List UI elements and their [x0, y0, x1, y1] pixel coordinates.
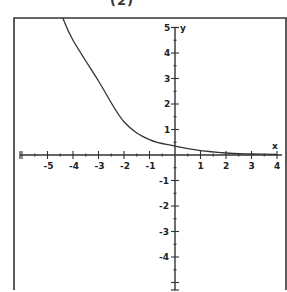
y-tick-label: -2 [159, 201, 169, 211]
x-tick-label: -4 [69, 161, 79, 171]
y-tick-label: -4 [159, 252, 169, 262]
x-tick-label: -3 [95, 161, 105, 171]
x-tick-label: -1 [146, 161, 156, 171]
x-tick-label: -2 [120, 161, 130, 171]
x-tick-label: 2 [223, 161, 229, 171]
tick-marks [22, 28, 277, 283]
y-tick-label: 5 [164, 23, 170, 33]
x-axis-label: x [272, 141, 278, 151]
x-tick-label: 3 [249, 161, 255, 171]
x-tick-label: 4 [274, 161, 280, 171]
y-tick-label: 2 [164, 99, 170, 109]
y-tick-label: 3 [164, 74, 170, 84]
x-tick-label: -5 [44, 161, 54, 171]
y-tick-label: 4 [164, 48, 170, 58]
y-tick-label: -3 [159, 227, 169, 237]
tick-labels: -5-4-3-2-1123454321-1-2-3-4xy [44, 23, 281, 263]
x-tick-label: 1 [198, 161, 204, 171]
function-plot: -5-4-3-2-1123454321-1-2-3-4xy [0, 0, 287, 292]
y-axis-label: y [180, 23, 186, 33]
axes [20, 28, 282, 291]
y-tick-label: -1 [159, 176, 169, 186]
y-tick-label: 1 [164, 125, 170, 135]
